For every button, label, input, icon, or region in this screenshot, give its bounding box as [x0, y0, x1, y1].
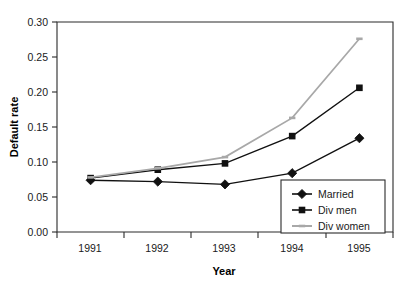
- data-point: [222, 161, 227, 166]
- y-tick-label: 0.20: [28, 86, 49, 98]
- y-tick-label: 0.30: [28, 16, 49, 28]
- data-point: [220, 180, 229, 189]
- data-point: [155, 167, 161, 170]
- data-point: [288, 169, 297, 178]
- line-chart: 0.30 0.25 0.20 0.15 0.10 0.05 0.00 1991 …: [0, 0, 406, 290]
- y-tick-label: 0.00: [28, 226, 49, 238]
- legend-swatch-marker: [299, 225, 305, 228]
- legend-label: Div women: [318, 220, 370, 232]
- x-tick-label: 1991: [78, 242, 102, 254]
- x-tick-label: 1995: [347, 242, 371, 254]
- y-tick-label: 0.15: [28, 121, 49, 133]
- y-tick-label: 0.10: [28, 156, 49, 168]
- x-axis-title: Year: [212, 265, 236, 277]
- series-layer: [86, 38, 364, 190]
- data-point: [356, 38, 362, 41]
- y-axis-ticks: [52, 22, 57, 232]
- data-point: [290, 134, 295, 139]
- x-tick-label: 1992: [145, 242, 169, 254]
- data-point: [153, 177, 162, 186]
- legend-swatch-marker: [299, 207, 304, 212]
- data-point: [222, 156, 228, 159]
- legend-label: Married: [318, 188, 354, 200]
- y-axis-title: Default rate: [8, 97, 20, 158]
- x-tick-label: 1994: [280, 242, 304, 254]
- data-point: [357, 85, 362, 90]
- x-tick-label: 1993: [212, 242, 236, 254]
- data-point: [289, 117, 295, 120]
- y-axis-tick-labels: 0.30 0.25 0.20 0.15 0.10 0.05 0.00: [28, 16, 49, 238]
- chart-legend: MarriedDiv menDiv women: [281, 180, 385, 233]
- y-tick-label: 0.25: [28, 51, 49, 63]
- series-div-men: [88, 85, 362, 181]
- legend-label: Div men: [318, 204, 357, 216]
- data-point: [87, 176, 93, 179]
- chart-container: 0.30 0.25 0.20 0.15 0.10 0.05 0.00 1991 …: [0, 0, 406, 290]
- data-point: [355, 134, 364, 143]
- y-tick-label: 0.05: [28, 191, 49, 203]
- x-axis-tick-labels: 1991 1992 1993 1994 1995: [78, 242, 371, 254]
